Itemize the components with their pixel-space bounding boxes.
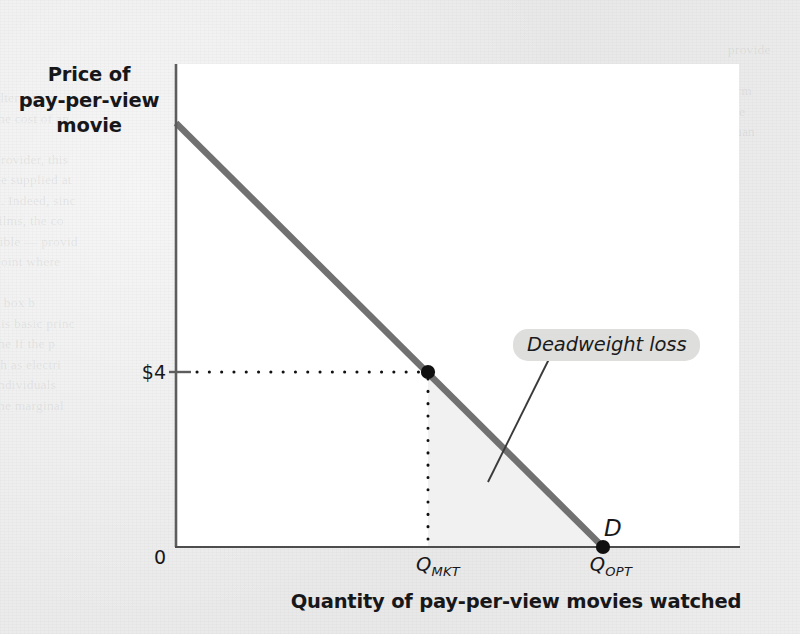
market-equilibrium-point-marker <box>421 365 435 379</box>
y-axis-title: Price of pay-per-view movie <box>14 62 164 139</box>
q-mkt-base: Q <box>416 553 431 576</box>
x-tick-label-q-mkt: QMKT <box>392 553 484 579</box>
demand-curve-label: D <box>604 515 622 541</box>
origin-label: 0 <box>140 546 166 568</box>
y-tick-label-price-4: $4 <box>108 361 166 383</box>
x-axis-title: Quantity of pay-per-view movies watched <box>240 590 792 613</box>
deadweight-loss-callout: Deadweight loss <box>513 329 700 361</box>
q-mkt-subscript: MKT <box>431 564 460 579</box>
optimal-point-marker <box>596 540 610 554</box>
textbook-figure-page: alternative the cost of an provider, thi… <box>0 0 800 634</box>
x-tick-label-q-opt: QOPT <box>565 553 657 579</box>
q-opt-subscript: OPT <box>605 564 632 579</box>
q-opt-base: Q <box>590 553 605 576</box>
deadweight-loss-callout-text: Deadweight loss <box>527 333 686 356</box>
